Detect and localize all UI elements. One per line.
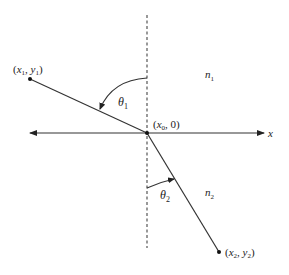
origin-label: (x0, 0) xyxy=(153,118,180,132)
n2-label: n2 xyxy=(205,186,215,201)
incident-ray xyxy=(30,79,147,133)
theta2-label: θ2 xyxy=(160,188,170,204)
x-axis-label: x xyxy=(267,127,273,139)
point-2-dot xyxy=(217,250,221,254)
point-1-dot xyxy=(28,77,32,81)
point-2-label: (x2, y2) xyxy=(225,246,255,260)
theta1-label: θ1 xyxy=(118,95,128,111)
origin-dot xyxy=(145,131,149,135)
n1-label: n1 xyxy=(205,68,215,83)
point-1-label: (x1, y1) xyxy=(13,63,43,77)
theta2-arc xyxy=(147,179,174,188)
refraction-diagram: (x1, y1) θ1 n1 (x0, 0) x θ2 n2 (x2, y2) xyxy=(0,0,289,275)
